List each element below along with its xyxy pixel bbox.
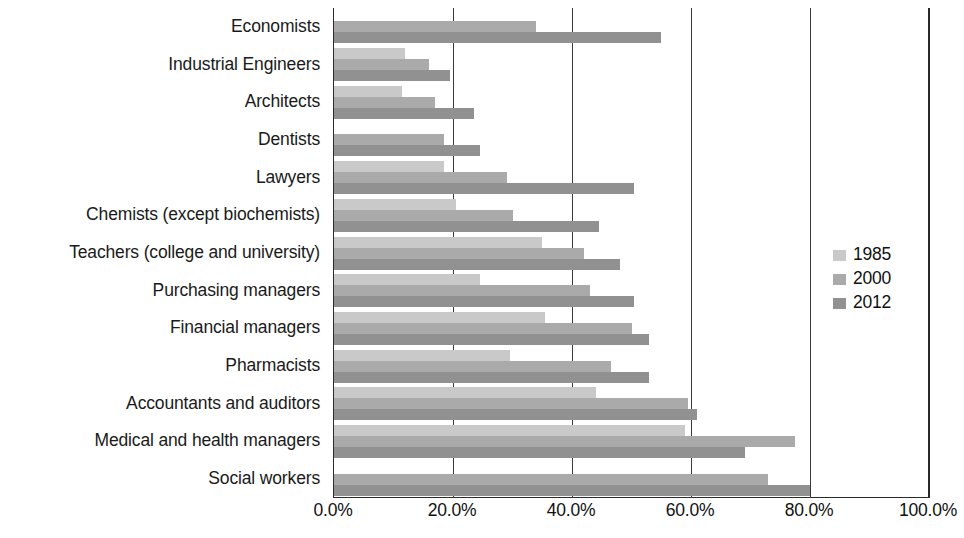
category-label: Lawyers (256, 169, 320, 187)
legend-swatch-icon (833, 298, 846, 309)
bar-1985 (334, 161, 444, 172)
bar-2000 (334, 398, 688, 409)
x-tick-label: 0.0% (313, 502, 352, 520)
grouped-bar-chart: EconomistsIndustrial EngineersArchitects… (0, 0, 964, 538)
legend-label: 1985 (853, 246, 891, 264)
bar-2000 (334, 474, 768, 485)
bar-2012 (334, 485, 810, 496)
bar-1985 (334, 274, 480, 285)
x-tick-label: 80.0% (785, 502, 834, 520)
bar-2000 (334, 436, 795, 447)
category-label: Dentists (258, 131, 320, 149)
bar-1985 (334, 350, 510, 361)
bar-2000 (334, 323, 632, 334)
category-axis-labels: EconomistsIndustrial EngineersArchitects… (0, 0, 328, 498)
bar-2000 (334, 21, 536, 32)
category-label: Accountants and auditors (126, 395, 320, 413)
bar-2012 (334, 334, 649, 345)
category-label: Economists (231, 18, 320, 36)
category-label: Social workers (208, 470, 320, 488)
category-label: Teachers (college and university) (69, 244, 320, 262)
gridline-80 (810, 8, 811, 498)
x-tick-label: 100.0% (899, 502, 957, 520)
category-label: Chemists (except biochemists) (86, 206, 320, 224)
gridline-60 (691, 8, 692, 498)
bar-2012 (334, 447, 745, 458)
category-label: Industrial Engineers (168, 56, 320, 74)
legend-item-1985[interactable]: 1985 (833, 243, 929, 267)
bar-2012 (334, 32, 661, 43)
bar-2012 (334, 108, 474, 119)
category-label: Pharmacists (225, 357, 320, 375)
chart-legend: 198520002012 (833, 243, 929, 315)
bar-2012 (334, 221, 599, 232)
bar-2012 (334, 183, 634, 194)
legend-swatch-icon (833, 274, 846, 285)
category-label: Medical and health managers (94, 432, 320, 450)
bar-2012 (334, 372, 649, 383)
bar-2000 (334, 361, 611, 372)
bar-2000 (334, 97, 435, 108)
bar-2000 (334, 248, 584, 259)
bar-1985 (334, 312, 545, 323)
legend-label: 2000 (853, 270, 891, 288)
category-label: Purchasing managers (153, 282, 320, 300)
bar-1985 (334, 387, 596, 398)
bar-2000 (334, 285, 590, 296)
bar-2000 (334, 210, 513, 221)
bar-2012 (334, 296, 634, 307)
x-tick-label: 40.0% (547, 502, 596, 520)
bar-1985 (334, 425, 685, 436)
bar-1985 (334, 199, 456, 210)
x-tick-label: 60.0% (666, 502, 715, 520)
bar-2012 (334, 145, 480, 156)
x-tick-label: 20.0% (428, 502, 477, 520)
bar-2012 (334, 70, 450, 81)
bar-2012 (334, 409, 697, 420)
bar-2012 (334, 259, 620, 270)
bar-1985 (334, 237, 542, 248)
bar-1985 (334, 86, 402, 97)
legend-label: 2012 (853, 294, 891, 312)
legend-item-2000[interactable]: 2000 (833, 267, 929, 291)
legend-swatch-icon (833, 250, 846, 261)
category-label: Financial managers (170, 319, 320, 337)
bar-2000 (334, 134, 444, 145)
bar-2000 (334, 172, 507, 183)
bar-1985 (334, 48, 405, 59)
x-axis-tick-labels: 0.0%20.0%40.0%60.0%80.0%100.0% (0, 502, 964, 532)
category-label: Architects (245, 93, 320, 111)
legend-item-2012[interactable]: 2012 (833, 291, 929, 315)
bar-2000 (334, 59, 429, 70)
